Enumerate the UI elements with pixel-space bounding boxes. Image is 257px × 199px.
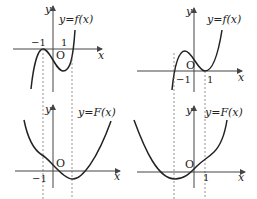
y-axis-label: y xyxy=(44,103,52,116)
origin-label: O xyxy=(185,158,194,171)
origin-label: O xyxy=(186,59,195,72)
tick-label: 1 xyxy=(61,37,67,48)
origin-label: O xyxy=(56,49,65,62)
x-axis-label: x xyxy=(238,171,245,184)
x-axis-label: x xyxy=(98,49,105,62)
function-label: y=F(x) xyxy=(204,106,243,119)
tick-label: 1 xyxy=(207,74,213,85)
curve-F xyxy=(134,120,227,179)
curve-F xyxy=(24,120,111,179)
x-axis-label: x xyxy=(114,170,121,183)
function-label: y=f(x) xyxy=(58,13,93,26)
panel-bottom-left: y x O −1 y=F(x) xyxy=(15,103,121,188)
tick-label: −1 xyxy=(31,37,46,48)
function-label: y=f(x) xyxy=(206,13,241,26)
function-label: y=F(x) xyxy=(77,106,116,119)
diagram-canvas: y x O −1 1 y=f(x) y x O −1 1 y=f(x) y x … xyxy=(0,0,257,199)
y-axis-label: y xyxy=(185,5,193,18)
y-axis-label: y xyxy=(44,3,52,16)
x-axis-label: x xyxy=(238,71,245,84)
tick-label: 1 xyxy=(203,172,209,183)
panel-bottom-right: y x O 1 y=F(x) xyxy=(134,104,245,188)
y-axis-label: y xyxy=(185,104,193,117)
tick-label: −1 xyxy=(176,74,191,85)
tick-label: −1 xyxy=(32,173,47,184)
origin-label: O xyxy=(56,157,65,170)
